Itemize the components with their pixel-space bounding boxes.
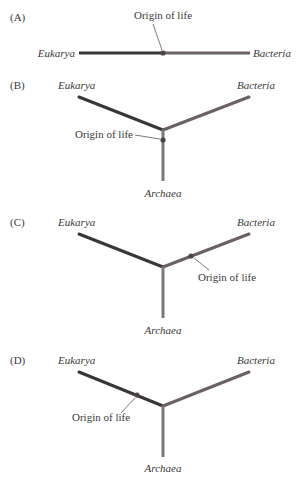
tree-of-life-diagrams: (A) Origin of life Eukarya Bacteria (B) … [0, 0, 297, 482]
origin-dot-a [160, 50, 165, 55]
origin-label-d: Origin of life [72, 411, 130, 423]
bacteria-label-a: Bacteria [253, 47, 291, 59]
bacteria-branch-b [163, 97, 249, 130]
eukarya-branch-d [79, 372, 163, 406]
origin-label-b: Origin of life [75, 128, 133, 140]
origin-pointer-c [194, 258, 209, 270]
panel-b: (B) Eukarya Bacteria Origin of life Arch… [10, 79, 275, 199]
origin-label-a: Origin of life [134, 9, 192, 21]
bacteria-label-d: Bacteria [237, 354, 275, 366]
panel-a: (A) Origin of life Eukarya Bacteria [10, 9, 291, 59]
archaea-label-b: Archaea [144, 187, 182, 199]
panel-c: (C) Eukarya Bacteria Origin of life Arch… [10, 216, 275, 336]
archaea-label-d: Archaea [144, 462, 182, 474]
panel-label-a: (A) [10, 11, 26, 24]
panel-label-d: (D) [10, 354, 26, 367]
panel-label-c: (C) [10, 216, 25, 229]
eukarya-branch-b [79, 97, 163, 130]
origin-dot-d [134, 392, 139, 397]
archaea-label-c: Archaea [144, 324, 182, 336]
panel-d: (D) Eukarya Bacteria Origin of life Arch… [10, 354, 275, 474]
eukarya-branch-c [79, 234, 163, 267]
eukarya-label-c: Eukarya [57, 216, 96, 228]
eukarya-label-a: Eukarya [37, 47, 76, 59]
eukarya-label-d: Eukarya [57, 354, 96, 366]
origin-dot-c [188, 253, 193, 258]
bacteria-label-b: Bacteria [237, 79, 275, 91]
eukarya-label-b: Eukarya [57, 79, 96, 91]
origin-pointer-a [153, 24, 162, 50]
bacteria-branch-d [163, 372, 249, 406]
origin-dot-b [160, 137, 165, 142]
origin-pointer-b [135, 135, 160, 139]
bacteria-branch-c [163, 234, 249, 267]
bacteria-label-c: Bacteria [237, 216, 275, 228]
panel-label-b: (B) [10, 79, 25, 92]
origin-label-c: Origin of life [198, 271, 256, 283]
